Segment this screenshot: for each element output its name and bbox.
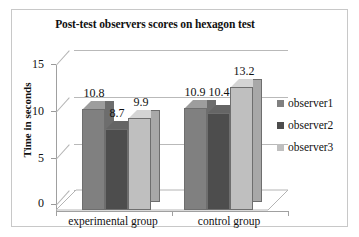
depth-edge-10 <box>56 97 70 113</box>
legend-item-observer3[interactable]: observer3 <box>277 136 349 158</box>
bar-front-face <box>82 109 105 210</box>
legend-item-observer2[interactable]: observer2 <box>277 114 349 136</box>
bar-side-face <box>253 79 262 202</box>
legend-label: observer1 <box>288 97 333 109</box>
bar-experimental-observer2[interactable] <box>105 129 128 210</box>
gridline-15 <box>74 50 288 51</box>
bar-front-face <box>128 118 151 210</box>
y-tick-label-5: 5 <box>22 151 44 166</box>
y-tick-label-0: 0 <box>22 196 44 211</box>
chart-title: Post-test observers scores on hexagon te… <box>12 18 298 30</box>
legend-swatch-icon <box>277 122 284 129</box>
bar-front-face <box>184 108 207 210</box>
depth-edge-5 <box>56 144 70 160</box>
y-tick-label-10: 10 <box>22 104 44 119</box>
bar-control-observer1[interactable] <box>184 108 207 210</box>
bar-value-experimental-observer3: 9.9 <box>124 95 158 110</box>
bar-side-face <box>151 110 160 202</box>
bar-experimental-observer1[interactable] <box>82 109 105 210</box>
x-category-label-experimental: experimental group <box>54 215 172 227</box>
bar-value-control-observer3: 13.2 <box>226 64 262 79</box>
bar-control-observer3[interactable] <box>230 87 253 210</box>
legend-label: observer2 <box>288 119 333 131</box>
y-tick-label-15: 15 <box>22 57 44 72</box>
legend-item-observer1[interactable]: observer1 <box>277 92 349 114</box>
bar-experimental-observer3[interactable] <box>128 118 151 210</box>
bar-control-observer2[interactable] <box>207 113 230 210</box>
chart-container: Post-test observers scores on hexagon te… <box>11 9 348 227</box>
bar-front-face <box>230 87 253 210</box>
x-tick-end <box>288 211 289 216</box>
chart-legend: observer1 observer2 observer3 <box>277 92 349 158</box>
bar-front-face <box>105 129 128 210</box>
plot-area: 10.8 8.7 9.9 10.9 10.4 <box>56 40 288 205</box>
depth-edge-15 <box>56 50 70 66</box>
bar-front-face <box>207 113 230 210</box>
legend-swatch-icon <box>277 144 284 151</box>
x-category-label-control: control group <box>170 215 288 227</box>
legend-swatch-icon <box>277 100 284 107</box>
bar-value-experimental-observer1: 10.8 <box>74 86 114 101</box>
legend-label: observer3 <box>288 141 333 153</box>
